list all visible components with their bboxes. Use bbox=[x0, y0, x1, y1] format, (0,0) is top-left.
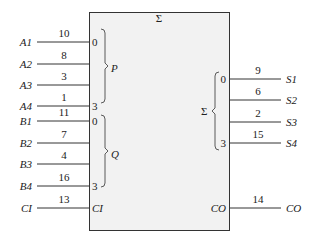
output-signal-label: CO bbox=[286, 202, 301, 214]
output-bit-label: 0 bbox=[221, 73, 227, 85]
input-signal-label: A2 bbox=[19, 58, 33, 70]
input-signal-label: A4 bbox=[19, 100, 33, 112]
input-pin-number: 10 bbox=[59, 27, 71, 39]
output-pin-number: 2 bbox=[255, 107, 261, 119]
input-bit-label: CI bbox=[92, 202, 104, 214]
output-signal-label: S3 bbox=[286, 116, 298, 128]
input-signal-label: A1 bbox=[19, 36, 32, 48]
input-signal-label: CI bbox=[21, 202, 33, 214]
input-pin-number: 13 bbox=[59, 193, 71, 205]
output-bit-label: 3 bbox=[221, 137, 227, 149]
input-signal-label: B4 bbox=[20, 180, 33, 192]
input-signal-label: B3 bbox=[20, 158, 33, 170]
adder-title: Σ bbox=[156, 12, 162, 24]
input-pin-number: 16 bbox=[59, 171, 71, 183]
input-bit-label: 3 bbox=[92, 100, 98, 112]
adder-box bbox=[90, 13, 230, 231]
input-bit-label: 0 bbox=[92, 115, 98, 127]
adder-diagram: Σ A1100A28A33A413B1110B27B34B4163CI13CI … bbox=[0, 0, 316, 239]
output-signal-label: S2 bbox=[286, 94, 298, 106]
output-pin-number: 9 bbox=[255, 64, 261, 76]
input-bit-label: 3 bbox=[92, 180, 98, 192]
output-pin-number: 15 bbox=[253, 128, 265, 140]
output-signal-label: S4 bbox=[286, 137, 298, 149]
input-pin-number: 7 bbox=[61, 128, 67, 140]
input-pin-number: 3 bbox=[61, 70, 67, 82]
group-label-sum: Σ bbox=[201, 105, 207, 117]
output-pin-number: 6 bbox=[255, 85, 261, 97]
group-label-q: Q bbox=[111, 148, 119, 160]
input-pin-number: 8 bbox=[61, 49, 67, 61]
input-signal-label: B2 bbox=[20, 137, 33, 149]
input-pin-number: 1 bbox=[61, 91, 67, 103]
output-signal-label: S1 bbox=[286, 73, 297, 85]
input-signal-label: A3 bbox=[19, 79, 33, 91]
output-bit-label: CO bbox=[211, 202, 226, 214]
input-bit-label: 0 bbox=[92, 36, 98, 48]
group-label-p: P bbox=[110, 62, 118, 74]
input-pin-number: 11 bbox=[59, 106, 70, 118]
input-pin-number: 4 bbox=[61, 149, 67, 161]
output-pin-number: 14 bbox=[253, 193, 265, 205]
input-signal-label: B1 bbox=[20, 115, 32, 127]
